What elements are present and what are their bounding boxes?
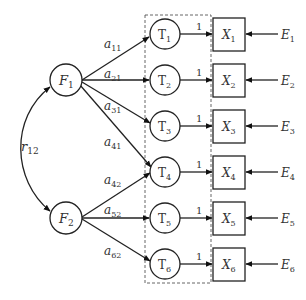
error-label-e5: E5 (280, 212, 295, 228)
loading-label-a52: a52 (104, 203, 121, 219)
loading-label-a31: a31 (104, 99, 121, 115)
weight-label-5: 1 (196, 205, 202, 216)
loading-label-a21: a21 (104, 67, 121, 83)
latent-t-group-box (145, 15, 211, 283)
weight-label-2: 1 (196, 67, 202, 78)
loading-label-a62: a62 (104, 244, 121, 260)
error-label-e1: E1 (280, 28, 295, 44)
factor-node-f2: F2 (50, 202, 82, 234)
loading-label-a41: a41 (104, 135, 121, 151)
correlation-label-r12: r12 (21, 139, 39, 156)
row-4: T4 1 X4 E4 (150, 156, 295, 189)
row-1: T1 1 X1 E1 (150, 18, 295, 51)
error-label-e3: E3 (280, 120, 295, 136)
weight-label-6: 1 (196, 251, 202, 262)
error-label-e6: E6 (280, 258, 295, 274)
weight-label-4: 1 (196, 159, 202, 170)
weight-label-3: 1 (196, 113, 202, 124)
error-label-e2: E2 (280, 74, 295, 90)
factor-node-f1: F1 (50, 64, 82, 96)
loading-label-a42: a42 (104, 173, 121, 189)
row-3: T3 1 X3 E3 (150, 110, 295, 143)
weight-label-1: 1 (196, 21, 202, 32)
sem-path-diagram: r12 a11 a21 a31 a41 a42 a52 a62 F1 F2 T1… (0, 0, 306, 300)
loading-edge-a31 (82, 82, 150, 123)
loading-label-a11: a11 (104, 37, 121, 53)
row-6: T6 1 X6 E6 (150, 248, 295, 281)
loading-edge-a41 (80, 85, 151, 167)
row-5: T5 1 X5 E5 (150, 202, 295, 235)
error-label-e4: E4 (280, 166, 295, 182)
row-2: T2 1 X2 E2 (150, 64, 295, 97)
